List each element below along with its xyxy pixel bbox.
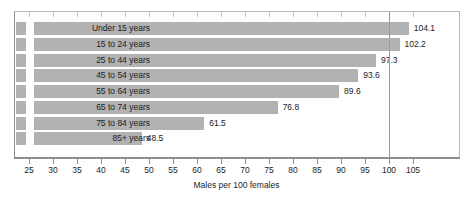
x-axis-title: Males per 100 females [0, 180, 473, 190]
x-tick-35 [77, 159, 78, 164]
x-tick-95 [365, 159, 366, 164]
bar-row: 65 to 74 years76.8 [0, 101, 473, 114]
x-axis-line [14, 158, 460, 159]
category-stub-marker [16, 132, 26, 145]
top-tick-40 [101, 12, 102, 17]
bar-row: 55 to 64 years89.6 [0, 85, 473, 98]
x-tick-label-65: 65 [216, 165, 225, 175]
top-tick-65 [221, 12, 222, 17]
top-tick-105 [413, 12, 414, 17]
x-tick-label-60: 60 [192, 165, 201, 175]
top-tick-55 [173, 12, 174, 17]
bar-row: 25 to 44 years97.3 [0, 54, 473, 67]
x-tick-40 [101, 159, 102, 164]
bar-row: 45 to 54 years93.6 [0, 69, 473, 82]
bar-row: 75 to 84 years61.5 [0, 117, 473, 130]
bar-value-label: 61.5 [209, 117, 226, 130]
x-tick-70 [245, 159, 246, 164]
x-tick-55 [173, 159, 174, 164]
x-tick-80 [293, 159, 294, 164]
x-tick-label-40: 40 [96, 165, 105, 175]
bar-category-label: 55 to 64 years [34, 85, 150, 98]
bar-category-label: 75 to 84 years [34, 117, 150, 130]
bar-category-label: 15 to 24 years [34, 38, 150, 51]
bar-chart: Under 15 years104.115 to 24 years102.225… [0, 0, 473, 202]
top-tick-25 [29, 12, 30, 17]
bar-category-label: Under 15 years [34, 22, 150, 35]
x-tick-100 [389, 159, 390, 164]
bar-value-label: 102.2 [405, 38, 426, 51]
x-tick-65 [221, 159, 222, 164]
top-tick-30 [53, 12, 54, 17]
bar-row: 15 to 24 years102.2 [0, 38, 473, 51]
top-tick-50 [149, 12, 150, 17]
top-tick-85 [317, 12, 318, 17]
bar-category-label: 65 to 74 years [34, 101, 150, 114]
x-tick-45 [125, 159, 126, 164]
x-tick-label-80: 80 [288, 165, 297, 175]
x-tick-105 [413, 159, 414, 164]
bar-row: 85+ years48.5 [0, 132, 473, 145]
category-stub-marker [16, 101, 26, 114]
bar-value-label: 93.6 [363, 69, 380, 82]
x-tick-label-35: 35 [72, 165, 81, 175]
bar-value-label: 48.5 [147, 132, 164, 145]
x-tick-75 [269, 159, 270, 164]
x-tick-label-90: 90 [336, 165, 345, 175]
x-tick-label-95: 95 [360, 165, 369, 175]
top-tick-35 [77, 12, 78, 17]
top-tick-45 [125, 12, 126, 17]
top-tick-80 [293, 12, 294, 17]
x-tick-85 [317, 159, 318, 164]
x-tick-label-105: 105 [406, 165, 420, 175]
x-tick-label-25: 25 [24, 165, 33, 175]
x-tick-label-70: 70 [240, 165, 249, 175]
x-tick-label-75: 75 [264, 165, 273, 175]
category-stub-marker [16, 117, 26, 130]
top-tick-75 [269, 12, 270, 17]
x-tick-label-55: 55 [168, 165, 177, 175]
top-tick-70 [245, 12, 246, 17]
x-tick-label-45: 45 [120, 165, 129, 175]
x-tick-30 [53, 159, 54, 164]
bar-category-label: 45 to 54 years [34, 69, 150, 82]
bar-category-label: 25 to 44 years [34, 54, 150, 67]
top-tick-95 [365, 12, 366, 17]
category-stub-marker [16, 85, 26, 98]
bar-category-label: 85+ years [34, 132, 150, 145]
category-stub-marker [16, 38, 26, 51]
x-tick-label-50: 50 [144, 165, 153, 175]
bar-value-label: 104.1 [414, 22, 435, 35]
bar-value-label: 76.8 [283, 101, 300, 114]
category-stub-marker [16, 69, 26, 82]
bar-value-label: 89.6 [344, 85, 361, 98]
category-stub-marker [16, 54, 26, 67]
x-tick-label-100: 100 [382, 165, 396, 175]
top-tick-60 [197, 12, 198, 17]
top-tick-90 [341, 12, 342, 17]
x-tick-60 [197, 159, 198, 164]
bar-row: Under 15 years104.1 [0, 22, 473, 35]
x-tick-label-85: 85 [312, 165, 321, 175]
bar-rows-container: Under 15 years104.115 to 24 years102.225… [0, 0, 473, 202]
x-tick-90 [341, 159, 342, 164]
reference-line-100 [389, 12, 390, 158]
x-tick-25 [29, 159, 30, 164]
x-tick-50 [149, 159, 150, 164]
x-tick-label-30: 30 [48, 165, 57, 175]
category-stub-marker [16, 22, 26, 35]
